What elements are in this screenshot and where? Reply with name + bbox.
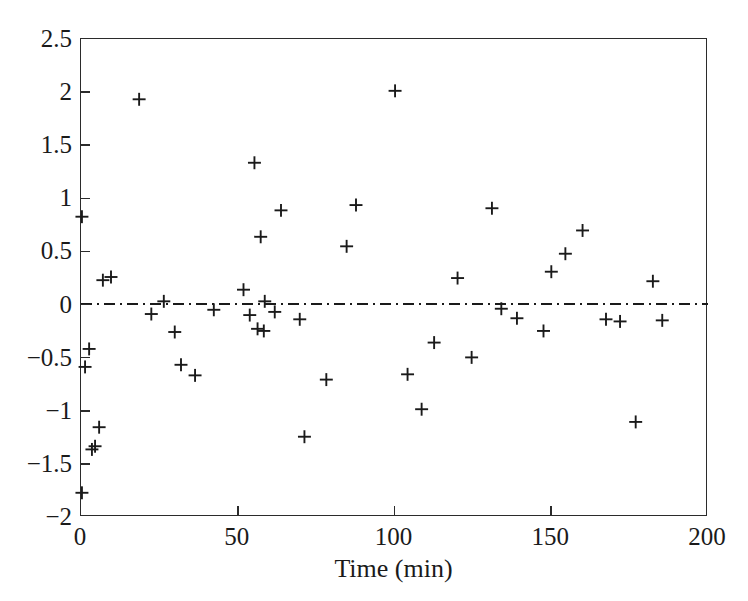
data-point-marker (350, 199, 363, 212)
data-point-marker (600, 313, 613, 326)
data-point-marker (275, 204, 288, 217)
data-point-marker (495, 302, 508, 315)
x-axis-tick-label: 150 (532, 524, 570, 549)
data-point-marker (168, 326, 181, 339)
data-point-marker (614, 315, 627, 328)
data-point-marker (83, 342, 96, 355)
x-axis-tick-label: 50 (224, 524, 249, 549)
data-point-marker (75, 210, 88, 223)
y-axis-tick (81, 198, 90, 200)
data-point-marker (105, 271, 118, 284)
x-axis-tick (237, 506, 239, 515)
y-axis-tick (81, 144, 90, 146)
y-axis-tick (81, 304, 90, 306)
y-axis-tick (81, 251, 90, 253)
y-axis-tick-label: 1 (60, 185, 73, 210)
data-point-marker (237, 283, 250, 296)
data-point-marker (629, 415, 642, 428)
data-point-marker (576, 224, 589, 237)
plot-area (80, 38, 707, 516)
data-point-marker (175, 358, 188, 371)
y-axis-tick-label: −0.5 (27, 344, 72, 369)
data-point-marker (401, 368, 414, 381)
data-point-marker (258, 295, 271, 308)
x-axis-tick-label: 100 (375, 524, 413, 549)
x-axis-tick (394, 506, 396, 515)
y-axis-tick-label: −2 (45, 504, 72, 529)
data-point-marker (75, 486, 88, 499)
data-point-marker (257, 324, 270, 337)
data-point-marker (320, 373, 333, 386)
data-point-marker (96, 274, 109, 287)
data-point-marker (89, 440, 102, 453)
data-point-marker (85, 443, 98, 456)
y-axis-tick-label: 2 (60, 79, 73, 104)
data-point-marker (389, 84, 402, 97)
data-point-marker (157, 295, 170, 308)
y-axis-tick-label: 0 (60, 291, 73, 316)
data-point-marker (189, 369, 202, 382)
scatter-plot-figure: −2−1.5−1−0.500.511.522.5 050100150200 Ti… (0, 0, 748, 601)
x-axis-tick (550, 506, 552, 515)
y-axis-tick-label: 0.5 (41, 238, 72, 263)
y-axis-tick (81, 410, 90, 412)
data-point-marker (145, 308, 158, 321)
data-point-marker (510, 312, 523, 325)
data-point-marker (451, 272, 464, 285)
y-axis-tick (81, 357, 90, 359)
data-point-marker (415, 403, 428, 416)
data-point-marker (656, 314, 669, 327)
x-axis-tick-labels: 050100150200 (80, 524, 707, 558)
data-point-marker (340, 240, 353, 253)
data-point-marker (293, 313, 306, 326)
data-point-marker (268, 305, 281, 318)
data-point-marker (248, 156, 261, 169)
data-point-marker (133, 93, 146, 106)
y-axis-tick-label: −1 (45, 397, 72, 422)
data-point-marker (537, 324, 550, 337)
data-point-marker (545, 265, 558, 278)
data-point-marker (298, 430, 311, 443)
y-axis-tick-label: 2.5 (41, 26, 72, 51)
y-axis-tick (81, 463, 90, 465)
data-point-marker (79, 360, 92, 373)
data-point-marker (465, 351, 478, 364)
y-axis-tick-label: −1.5 (27, 450, 72, 475)
data-point-marker (254, 230, 267, 243)
y-axis-tick-label: 1.5 (41, 132, 72, 157)
data-point-marker (559, 247, 572, 260)
y-axis-tick (81, 91, 90, 93)
x-axis-tick-label: 200 (688, 524, 726, 549)
data-point-marker (646, 275, 659, 288)
data-point-marker (485, 202, 498, 215)
data-point-marker (93, 421, 106, 434)
y-axis-tick-labels: −2−1.5−1−0.500.511.522.5 (0, 38, 72, 516)
data-points-layer (81, 39, 706, 515)
data-point-marker (207, 303, 220, 316)
data-point-marker (243, 309, 256, 322)
data-point-marker (251, 322, 264, 335)
x-axis-tick-label: 0 (74, 524, 87, 549)
data-point-marker (428, 336, 441, 349)
x-axis-title: Time (min) (80, 556, 707, 582)
